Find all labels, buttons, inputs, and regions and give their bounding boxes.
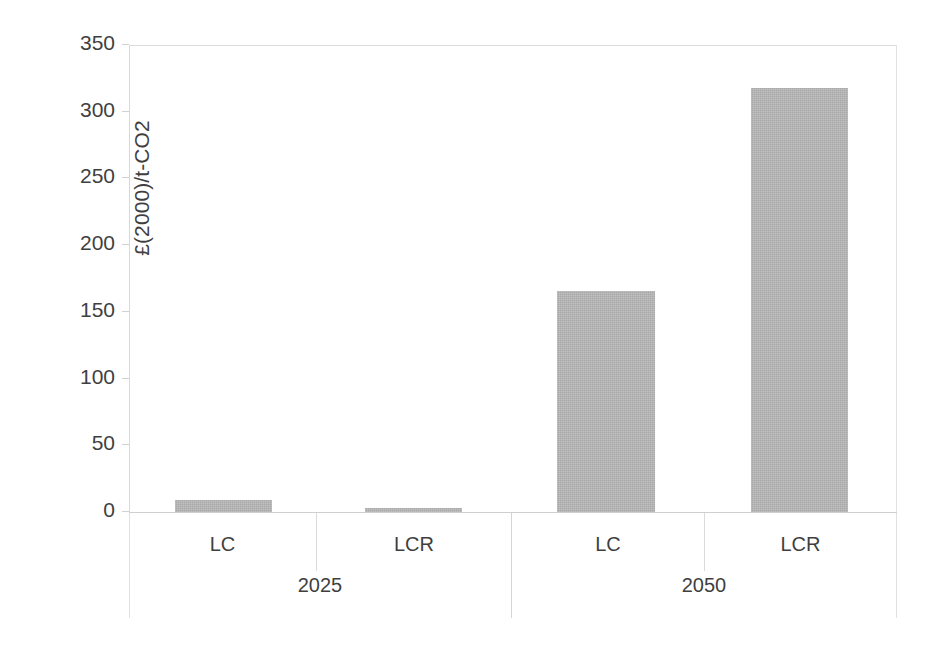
y-axis-tick-mark <box>122 311 129 312</box>
y-axis-tick-label: 0 <box>103 498 115 522</box>
y-axis-tick-label: 200 <box>80 231 115 255</box>
x-axis-group-label-2050: 2050 <box>512 574 896 597</box>
y-axis-tick-mark <box>122 511 129 512</box>
x-axis-left-edge <box>129 513 130 618</box>
y-axis-tick-label: 350 <box>80 31 115 55</box>
y-axis-tick-mark <box>122 44 129 45</box>
y-axis-tick-mark <box>122 444 129 445</box>
bar-2025-lc <box>175 500 272 512</box>
bar-chart-figure: £(2000)/t-CO2 350300250200150100500 LC L… <box>0 0 944 656</box>
x-axis-group-separator <box>511 513 512 618</box>
bar-2050-lc <box>557 291 655 512</box>
y-axis-tick-label: 300 <box>80 98 115 122</box>
y-axis-tick-label: 50 <box>92 431 115 455</box>
y-axis-tick-mark <box>122 378 129 379</box>
bar-2025-lcr <box>365 508 462 512</box>
bar-2050-lcr <box>751 88 848 512</box>
y-axis-tick-layer: 350300250200150100500 <box>0 0 129 656</box>
x-axis-right-edge <box>896 513 897 618</box>
x-axis-group-label-2025: 2025 <box>129 574 511 597</box>
y-axis-tick-label: 250 <box>80 164 115 188</box>
x-axis-category-label-2050-lc: LC <box>512 533 704 556</box>
x-axis-baseline <box>129 512 897 513</box>
x-axis-category-label-2025-lc: LC <box>129 533 316 556</box>
y-axis-tick-mark <box>122 244 129 245</box>
y-axis-tick-label: 100 <box>80 365 115 389</box>
x-axis-category-label-2025-lcr: LCR <box>317 533 511 556</box>
y-axis-tick-mark <box>122 111 129 112</box>
y-axis-tick-mark <box>122 177 129 178</box>
x-axis-category-label-2050-lcr: LCR <box>705 533 896 556</box>
y-axis-tick-label: 150 <box>80 298 115 322</box>
